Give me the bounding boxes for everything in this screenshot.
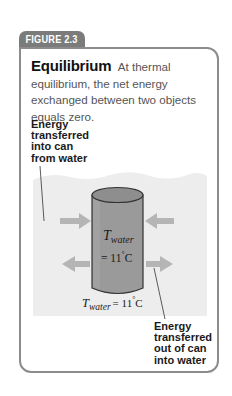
energy-in-line: into can	[31, 141, 89, 152]
energy-out-line: out of can	[154, 343, 212, 354]
can-top	[92, 188, 143, 203]
energy-in-line: from water	[31, 153, 89, 164]
energy-out-line: into water	[154, 355, 212, 366]
energy-out-label: Energy transferred out of can into water	[154, 321, 212, 366]
energy-in-label: Energy transferred into can from water	[31, 119, 89, 164]
can-temp-value: = 11°C	[101, 250, 133, 264]
